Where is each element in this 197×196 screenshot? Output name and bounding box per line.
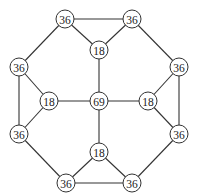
node-rc: 18 bbox=[139, 92, 157, 110]
node-label: 69 bbox=[93, 96, 105, 108]
node-r2: 36 bbox=[170, 125, 188, 143]
node-label: 36 bbox=[13, 62, 25, 74]
node-l2: 36 bbox=[10, 125, 28, 143]
node-label: 36 bbox=[13, 129, 25, 141]
node-label: 18 bbox=[142, 96, 154, 108]
node-c: 69 bbox=[90, 92, 108, 110]
node-tc: 18 bbox=[90, 41, 108, 59]
node-label: 36 bbox=[173, 62, 185, 74]
node-label: 36 bbox=[60, 178, 72, 190]
node-bc: 18 bbox=[90, 143, 108, 161]
node-l1: 36 bbox=[10, 58, 28, 76]
nodes: 36361836361869183636183636 bbox=[10, 10, 188, 192]
node-b1: 36 bbox=[57, 174, 75, 192]
node-label: 18 bbox=[93, 147, 105, 159]
node-t1: 36 bbox=[56, 10, 74, 28]
node-label: 18 bbox=[43, 96, 55, 108]
node-label: 18 bbox=[93, 45, 105, 57]
edge-r2-b2 bbox=[132, 134, 179, 183]
node-label: 36 bbox=[59, 14, 71, 26]
node-t2: 36 bbox=[123, 10, 141, 28]
octagon-graph-diagram: 36361836361869183636183636 bbox=[0, 0, 197, 196]
edge-t1-l1 bbox=[19, 19, 65, 67]
node-r1: 36 bbox=[170, 58, 188, 76]
node-label: 36 bbox=[126, 14, 138, 26]
node-b2: 36 bbox=[123, 174, 141, 192]
node-lc: 18 bbox=[40, 92, 58, 110]
edge-t2-r1 bbox=[132, 19, 179, 67]
node-label: 36 bbox=[173, 129, 185, 141]
node-label: 36 bbox=[126, 178, 138, 190]
edge-l2-b1 bbox=[19, 134, 66, 183]
